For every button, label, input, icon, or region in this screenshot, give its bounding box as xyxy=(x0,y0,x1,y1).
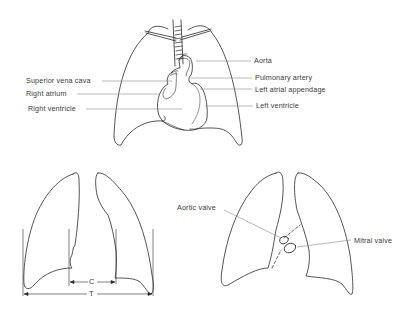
label-thoracic-width: T xyxy=(88,290,95,298)
diagram-canvas xyxy=(0,0,415,312)
br-left-lung-outline xyxy=(295,173,353,295)
br-right-lung-outline xyxy=(221,172,283,286)
left-lung-outline xyxy=(188,26,242,145)
bl-left-lung-outline xyxy=(96,173,154,294)
label-pulmonary-artery: Pulmonary artery xyxy=(255,74,312,81)
right-lung-outline xyxy=(114,26,168,145)
label-superior-vena-cava: Superior vena cava xyxy=(26,77,91,84)
bl-right-lung-outline xyxy=(24,173,79,289)
label-aorta: Aorta xyxy=(254,57,272,64)
aortic-valve-icon xyxy=(279,235,290,245)
top-leader-lines xyxy=(77,61,253,109)
dimension-lines xyxy=(23,229,153,296)
valves-figure xyxy=(221,172,353,294)
label-aortic-valve: Aortic valve xyxy=(177,204,216,211)
label-left-atrial-appendage: Left atrial appendage xyxy=(255,86,326,93)
label-right-ventricle: Right ventricle xyxy=(28,105,76,112)
label-left-ventricle: Left ventricle xyxy=(256,102,299,109)
diaphragm-line xyxy=(162,121,184,130)
label-mitral-valve: Mitral valve xyxy=(354,237,392,244)
cardiothoracic-figure xyxy=(24,173,154,294)
label-right-atrium: Right atrium xyxy=(26,90,67,97)
top-figure xyxy=(114,20,242,145)
label-cardiac-width: C xyxy=(88,278,95,286)
